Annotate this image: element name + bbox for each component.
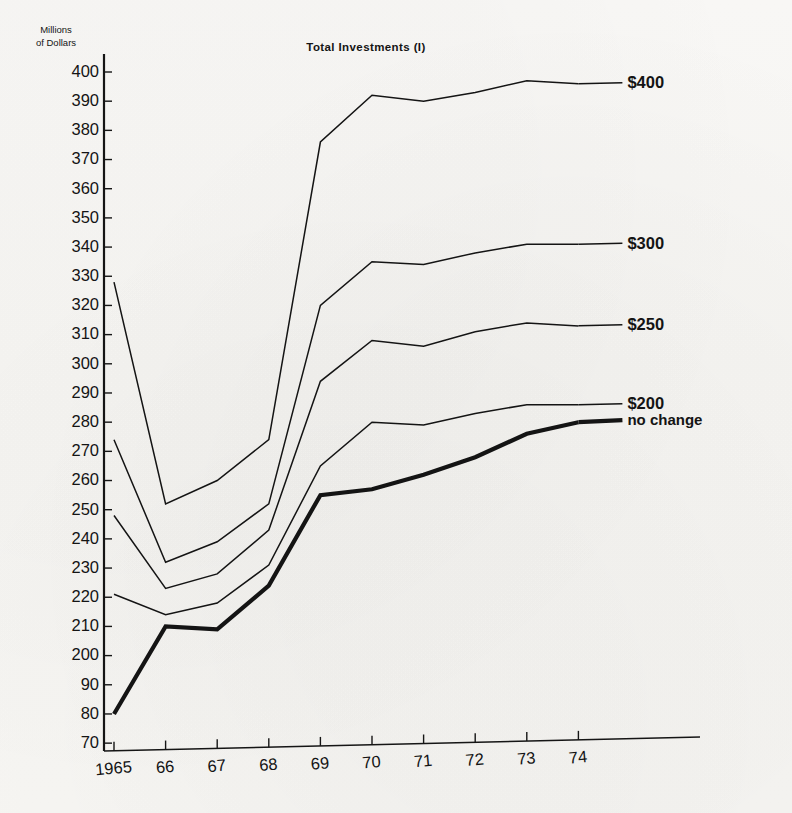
y-tick-label: 270 [71, 441, 99, 459]
x-tick-label: 71 [413, 751, 433, 771]
y-axis-ticks: 4003903803703603503403303203103002902802… [71, 62, 112, 751]
y-tick-label: 330 [71, 266, 99, 284]
y-tick-label: 380 [71, 120, 99, 138]
x-tick-label: 70 [362, 752, 382, 772]
x-tick-label: 72 [465, 750, 485, 770]
y-tick-label: 210 [71, 616, 99, 634]
y-tick-label: 250 [71, 500, 99, 518]
series-label: $200 [627, 394, 664, 412]
series-leader-line [578, 83, 622, 84]
series-leader-line [578, 404, 622, 405]
x-tick-label: 1965 [94, 757, 132, 778]
y-tick-label: 400 [71, 62, 99, 80]
series-label: $400 [627, 73, 664, 91]
y-tick-label: 320 [71, 295, 99, 313]
y-tick-label: 340 [71, 237, 99, 255]
chart-figure: 4003903803703603503403303203103002902802… [0, 0, 792, 813]
x-tick-label: 73 [516, 748, 536, 768]
y-tick-label: 90 [81, 675, 99, 693]
x-tick-label: 74 [568, 747, 588, 767]
line-chart-canvas: 4003903803703603503403303203103002902802… [0, 0, 792, 813]
y-tick-label: 240 [71, 529, 99, 547]
series-leader-line [578, 243, 622, 244]
series-line [114, 323, 578, 589]
series-label: $300 [627, 234, 664, 252]
series-leader-line [578, 325, 622, 326]
x-axis-ticks: 1965666768697071727374 [94, 731, 587, 778]
y-tick-label: 70 [81, 733, 99, 751]
y-tick-label: 260 [71, 470, 99, 488]
y-tick-label: 370 [71, 149, 99, 167]
y-tick-label: 290 [71, 383, 99, 401]
y-tick-label: 220 [71, 587, 99, 605]
x-tick-label: 68 [258, 754, 278, 774]
y-tick-label: 350 [71, 208, 99, 226]
y-tick-label: 200 [71, 645, 99, 663]
y-tick-label: 300 [71, 354, 99, 372]
series-line [114, 244, 578, 562]
x-axis-line [104, 737, 700, 751]
chart-title: Total Investments (I) [306, 41, 425, 53]
y-tick-label: 80 [81, 704, 99, 722]
y-tick-label: 390 [71, 91, 99, 109]
series-line [114, 422, 578, 714]
y-tick-label: 310 [71, 324, 99, 342]
series-labels: $400$300$250$200no change [578, 73, 702, 428]
y-tick-label: 280 [71, 412, 99, 430]
series-label: no change [627, 411, 702, 428]
x-tick-label: 69 [310, 753, 330, 773]
x-tick-label: 66 [155, 757, 175, 777]
x-tick-label: 67 [207, 756, 227, 776]
series-leader-line [578, 420, 622, 422]
y-tick-label: 230 [71, 558, 99, 576]
y-axis-caption-line2: of Dollars [36, 37, 76, 48]
series-lines [114, 81, 578, 714]
series-label: $250 [627, 315, 664, 333]
y-axis-caption-line1: Millions [40, 24, 72, 35]
y-tick-label: 360 [71, 179, 99, 197]
